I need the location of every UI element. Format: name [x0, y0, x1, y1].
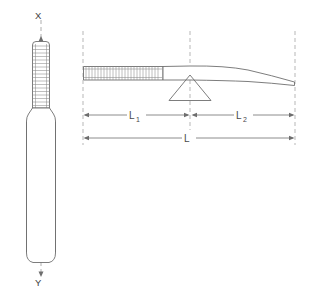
dimension-l2: L 2: [192, 107, 295, 123]
dimension-l2-arrow-left: [192, 113, 198, 118]
front-view: [27, 20, 56, 277]
dimension-l1: L 1: [84, 107, 190, 123]
arrow-x: [39, 36, 44, 42]
dimension-l-arrow-right: [289, 136, 295, 141]
dimension-l2-arrow-right: [289, 113, 295, 118]
dimension-l1-label: L: [129, 110, 135, 121]
engineering-diagram: X Y: [0, 0, 309, 291]
axis-label-x: X: [35, 10, 42, 21]
beam-body: [163, 66, 295, 86]
dimension-l2-label: L: [236, 110, 242, 121]
dimension-l-label: L: [184, 133, 190, 144]
dimension-l1-subscript: 1: [136, 116, 140, 123]
side-view: [84, 66, 295, 101]
dimension-l: L: [84, 130, 295, 146]
dimension-l1-arrow-left: [84, 113, 90, 118]
dimension-l2-subscript: 2: [243, 116, 247, 123]
dimension-l1-arrow-right: [184, 113, 190, 118]
handle-body: [27, 108, 56, 263]
axis-label-y: Y: [35, 277, 42, 288]
reference-lines: [83, 31, 295, 145]
technical-drawing-canvas: X Y: [0, 0, 309, 291]
threaded-shaft: [33, 42, 50, 109]
threaded-shaft-side: [84, 67, 164, 81]
dimension-l-arrow-left: [84, 136, 90, 141]
